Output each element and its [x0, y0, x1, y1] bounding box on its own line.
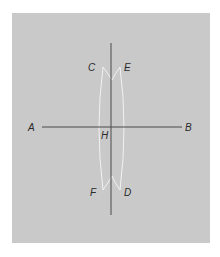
label-c: C	[88, 62, 96, 73]
label-f: F	[90, 187, 97, 198]
label-a: A	[27, 122, 35, 133]
label-b: B	[185, 122, 192, 133]
diagram-canvas: A B H C E F D	[0, 0, 220, 257]
label-d: D	[124, 187, 131, 198]
construction-figure: A B H C E F D	[0, 0, 220, 257]
label-e: E	[124, 62, 131, 73]
label-h: H	[101, 130, 109, 141]
